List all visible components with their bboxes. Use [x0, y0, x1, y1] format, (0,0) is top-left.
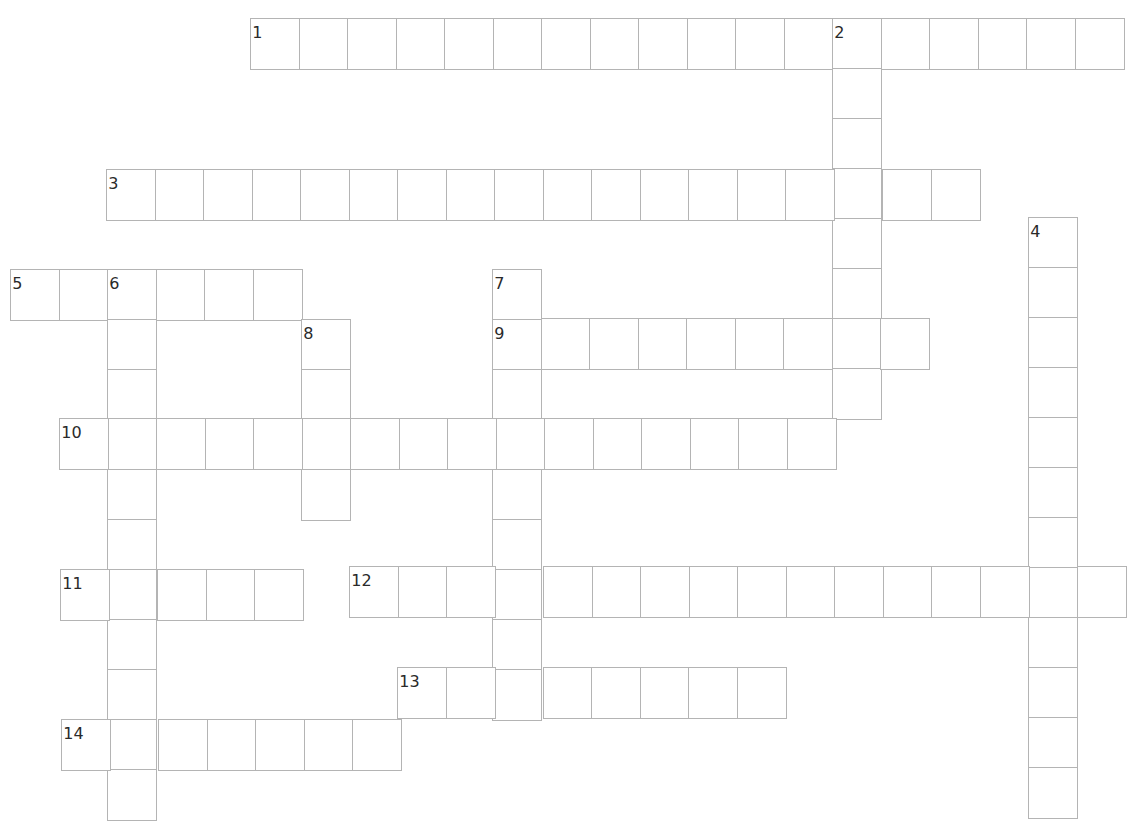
letter-input[interactable]	[497, 419, 545, 469]
crossword-cell[interactable]	[1028, 617, 1078, 669]
letter-input[interactable]	[641, 170, 689, 220]
letter-input[interactable]	[108, 320, 156, 370]
letter-input[interactable]	[688, 19, 736, 69]
crossword-cell[interactable]	[786, 566, 836, 618]
crossword-cell[interactable]	[980, 566, 1030, 618]
crossword-cell[interactable]	[1028, 467, 1078, 519]
crossword-cell[interactable]	[255, 719, 305, 771]
crossword-cell[interactable]	[447, 418, 497, 470]
crossword-cell[interactable]	[738, 418, 788, 470]
letter-input[interactable]	[544, 668, 592, 718]
letter-input[interactable]	[305, 720, 353, 770]
letter-input[interactable]	[156, 170, 204, 220]
crossword-cell[interactable]	[687, 18, 737, 70]
letter-input[interactable]	[884, 567, 932, 617]
crossword-cell[interactable]: 5	[10, 269, 60, 321]
letter-input[interactable]	[108, 720, 156, 770]
letter-input[interactable]	[641, 567, 689, 617]
letter-input[interactable]	[61, 570, 109, 620]
crossword-cell[interactable]	[493, 18, 543, 70]
letter-input[interactable]	[1029, 368, 1077, 418]
crossword-cell[interactable]: 10	[59, 418, 109, 470]
letter-input[interactable]	[785, 19, 833, 69]
crossword-cell[interactable]: 3	[106, 169, 156, 221]
letter-input[interactable]	[639, 319, 687, 369]
crossword-cell[interactable]	[107, 769, 157, 821]
letter-input[interactable]	[981, 567, 1029, 617]
crossword-cell[interactable]	[834, 566, 884, 618]
letter-input[interactable]	[1029, 768, 1077, 818]
letter-input[interactable]	[833, 119, 881, 169]
crossword-cell[interactable]: 7	[492, 269, 542, 321]
crossword-cell[interactable]	[107, 519, 157, 571]
letter-input[interactable]	[787, 567, 835, 617]
letter-input[interactable]	[833, 369, 881, 419]
crossword-cell[interactable]	[737, 169, 787, 221]
crossword-cell[interactable]	[156, 269, 206, 321]
crossword-cell[interactable]	[352, 719, 402, 771]
letter-input[interactable]	[1027, 19, 1075, 69]
crossword-cell[interactable]	[302, 418, 352, 470]
letter-input[interactable]	[399, 567, 447, 617]
crossword-cell[interactable]	[931, 169, 981, 221]
crossword-cell[interactable]	[1028, 367, 1078, 419]
crossword-cell[interactable]: 4	[1028, 217, 1078, 269]
crossword-cell[interactable]: 9	[492, 319, 542, 371]
letter-input[interactable]	[1076, 19, 1124, 69]
crossword-cell[interactable]	[397, 169, 447, 221]
crossword-cell[interactable]	[735, 18, 785, 70]
crossword-cell[interactable]	[492, 569, 542, 621]
letter-input[interactable]	[738, 170, 786, 220]
letter-input[interactable]	[400, 419, 448, 469]
letter-input[interactable]	[788, 419, 836, 469]
letter-input[interactable]	[593, 567, 641, 617]
letter-input[interactable]	[690, 567, 738, 617]
letter-input[interactable]	[157, 419, 205, 469]
crossword-cell[interactable]	[203, 169, 253, 221]
crossword-cell[interactable]	[543, 169, 593, 221]
crossword-cell[interactable]	[593, 418, 643, 470]
crossword-cell[interactable]	[641, 418, 691, 470]
crossword-cell[interactable]	[978, 18, 1028, 70]
crossword-cell[interactable]	[107, 719, 157, 771]
letter-input[interactable]	[545, 419, 593, 469]
letter-input[interactable]	[738, 567, 786, 617]
crossword-cell[interactable]	[688, 169, 738, 221]
crossword-cell[interactable]	[832, 168, 882, 220]
letter-input[interactable]	[833, 269, 881, 319]
letter-input[interactable]	[447, 567, 495, 617]
crossword-cell[interactable]	[882, 169, 932, 221]
crossword-cell[interactable]	[832, 118, 882, 170]
crossword-cell[interactable]: 12	[349, 566, 399, 618]
crossword-cell[interactable]	[1075, 18, 1125, 70]
crossword-cell[interactable]	[1028, 517, 1078, 569]
crossword-cell[interactable]	[446, 667, 496, 719]
letter-input[interactable]	[302, 320, 350, 370]
letter-input[interactable]	[833, 169, 881, 219]
crossword-cell[interactable]	[299, 18, 349, 70]
crossword-cell[interactable]	[640, 566, 690, 618]
crossword-cell[interactable]	[1028, 767, 1078, 819]
crossword-cell[interactable]	[1028, 567, 1078, 619]
crossword-cell[interactable]	[832, 218, 882, 270]
letter-input[interactable]	[204, 170, 252, 220]
crossword-cell[interactable]	[107, 569, 157, 621]
crossword-cell[interactable]	[832, 318, 882, 370]
crossword-cell[interactable]	[350, 418, 400, 470]
crossword-cell[interactable]	[735, 318, 785, 370]
crossword-cell[interactable]	[107, 319, 157, 371]
letter-input[interactable]	[691, 419, 739, 469]
crossword-cell[interactable]	[688, 667, 738, 719]
crossword-cell[interactable]	[446, 169, 496, 221]
crossword-cell[interactable]	[304, 719, 354, 771]
letter-input[interactable]	[689, 170, 737, 220]
crossword-cell[interactable]	[737, 667, 787, 719]
crossword-cell[interactable]	[1026, 18, 1076, 70]
letter-input[interactable]	[494, 19, 542, 69]
letter-input[interactable]	[205, 270, 253, 320]
letter-input[interactable]	[591, 19, 639, 69]
letter-input[interactable]	[108, 770, 156, 820]
letter-input[interactable]	[833, 319, 881, 369]
letter-input[interactable]	[302, 470, 350, 520]
crossword-cell[interactable]: 11	[60, 569, 110, 621]
